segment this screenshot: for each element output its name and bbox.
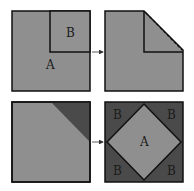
label-b-top-right: B	[167, 108, 176, 122]
panel-bottom-left	[12, 102, 90, 182]
label-a: A	[45, 58, 55, 72]
panel-top-left: B A	[12, 11, 90, 91]
diagram-canvas: B A A B B B B	[0, 0, 194, 191]
panel-bottom-right: A B B B B	[105, 102, 183, 182]
label-b-top-left: B	[113, 108, 122, 122]
panel-top-right	[105, 11, 183, 91]
label-a: A	[139, 135, 149, 149]
label-b-bottom-left: B	[113, 164, 122, 178]
label-b: B	[66, 26, 75, 40]
label-b-bottom-right: B	[167, 164, 176, 178]
